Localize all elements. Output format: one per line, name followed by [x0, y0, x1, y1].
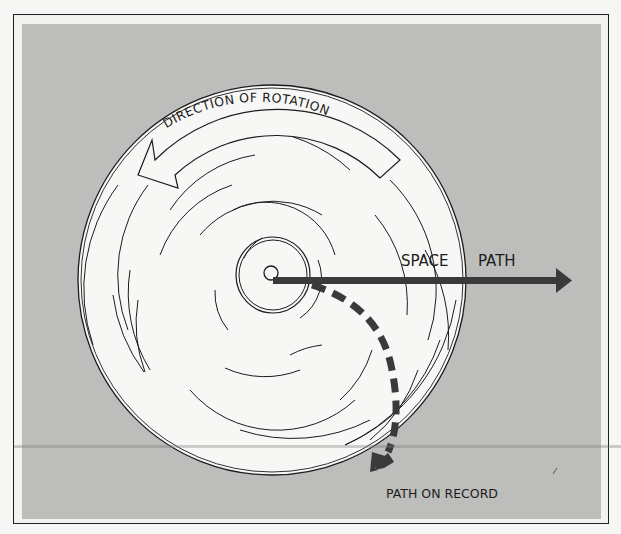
scan-fold-line — [14, 445, 621, 448]
scan-mark — [553, 468, 557, 474]
record-diagram: DIRECTION OF ROTATION SPACE PATH PATH ON… — [0, 0, 621, 534]
space-label: SPACE — [401, 252, 449, 270]
path-on-record-label: PATH ON RECORD — [386, 486, 498, 501]
path-label: PATH — [478, 252, 516, 270]
